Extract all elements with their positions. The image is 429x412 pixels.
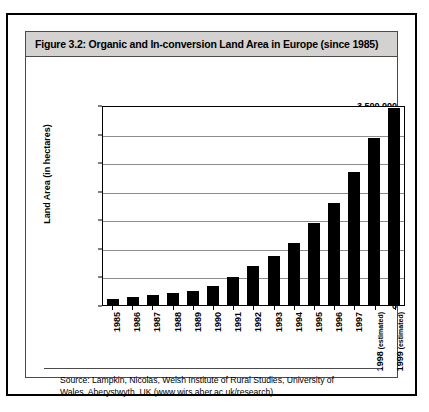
x-axis-tick-year: 1990: [213, 312, 223, 332]
x-axis-tick-label: 1992: [253, 312, 263, 332]
x-axis-tick: 1994: [284, 308, 303, 366]
bar: [308, 223, 320, 305]
x-axis-tick-label: 1993: [274, 312, 284, 332]
bar: [127, 297, 139, 305]
bar: [187, 291, 199, 305]
x-axis-tick-year: 1985: [112, 312, 122, 332]
bar: [268, 256, 280, 305]
source-line-1: Source: Lampkin, Nicolas, Welsh Institut…: [60, 374, 380, 386]
x-axis-tick-year: 1997: [354, 312, 364, 332]
x-axis-tick-label: 1998 (estimated): [375, 312, 385, 371]
bar: [247, 266, 259, 305]
x-axis-tick-year: 1989: [193, 312, 203, 332]
x-axis-tick: 1995: [304, 308, 323, 366]
x-axis-tick-mark: [132, 306, 133, 310]
bar: [288, 243, 300, 305]
x-axis-tick: 1990: [204, 308, 223, 366]
bar: [107, 299, 119, 305]
x-axis-tick-mark: [294, 306, 295, 310]
bar: [227, 277, 239, 305]
source-divider: [44, 368, 381, 369]
x-axis-tick-mark: [395, 306, 396, 310]
x-axis-tick-label: 1986: [132, 312, 142, 332]
figure-outer-frame: Figure 3.2: Organic and In-conversion La…: [6, 13, 417, 396]
x-axis-tick: 1992: [244, 308, 263, 366]
x-axis-tick-year: 1996: [334, 312, 344, 332]
bar: [328, 203, 340, 305]
x-axis-tick-mark: [173, 306, 174, 310]
x-axis-tick-mark: [375, 306, 376, 310]
x-axis-tick-note: (estimated): [397, 312, 404, 351]
bar: [348, 172, 360, 305]
x-axis-tick: 1999 (estimated): [385, 308, 404, 366]
x-axis-tick: 1985: [103, 308, 122, 366]
x-axis-tick-label: 1985: [112, 312, 122, 332]
x-axis-ticks: 1985198619871988198919901991199219931994…: [102, 308, 405, 368]
x-axis-tick-label: 1990: [213, 312, 223, 332]
x-axis-tick-label: 1988: [173, 312, 183, 332]
x-axis-tick-mark: [152, 306, 153, 310]
x-axis-tick-year: 1986: [132, 312, 142, 332]
x-axis-tick-mark: [193, 306, 194, 310]
y-axis-label: Land Area (in hectares): [42, 109, 52, 239]
x-axis-tick-mark: [233, 306, 234, 310]
x-axis-tick-mark: [314, 306, 315, 310]
x-axis-tick-label: 1989: [193, 312, 203, 332]
x-axis-tick-label: 1994: [294, 312, 304, 332]
plot-area: [102, 106, 405, 306]
x-axis-tick-label: 1997: [354, 312, 364, 332]
x-axis-tick-year: 1995: [314, 312, 324, 332]
bar: [368, 138, 380, 305]
source-line-2: Wales, Aberystwyth, UK (www.wirs.aber.ac…: [60, 386, 380, 398]
x-axis-tick: 1998 (estimated): [365, 308, 384, 366]
x-axis-tick: 1991: [224, 308, 243, 366]
x-axis-tick: 1988: [163, 308, 182, 366]
x-axis-tick: 1989: [183, 308, 202, 366]
x-axis-tick-label: 1996: [334, 312, 344, 332]
x-axis-tick-year: 1994: [294, 312, 304, 332]
figure-inner-frame: Figure 3.2: Organic and In-conversion La…: [25, 31, 398, 378]
x-axis-tick: 1986: [123, 308, 142, 366]
x-axis-tick: 1987: [143, 308, 162, 366]
bar-series: [103, 107, 404, 305]
figure-title-bar: Figure 3.2: Organic and In-conversion La…: [26, 32, 397, 57]
bar: [167, 293, 179, 305]
x-axis-tick-mark: [112, 306, 113, 310]
bar: [207, 286, 219, 305]
x-axis-tick: 1996: [325, 308, 344, 366]
x-axis-tick-label: 1987: [152, 312, 162, 332]
bar: [388, 108, 400, 305]
x-axis-tick-year: 1992: [253, 312, 263, 332]
x-axis-tick-year: 1991: [233, 312, 243, 332]
page-title: Figure 3.2: Organic and In-conversion La…: [26, 38, 378, 50]
x-axis-tick-mark: [213, 306, 214, 310]
x-axis-tick-year: 1999: [395, 351, 405, 371]
x-axis-tick-year: 1987: [152, 312, 162, 332]
x-axis-tick-year: 1993: [274, 312, 284, 332]
x-axis-tick-label: 1991: [233, 312, 243, 332]
x-axis-tick-mark: [354, 306, 355, 310]
source-note: Source: Lampkin, Nicolas, Welsh Institut…: [60, 374, 380, 398]
x-axis-tick-label: 1995: [314, 312, 324, 332]
x-axis-tick: 1997: [345, 308, 364, 366]
x-axis-tick-note: (estimated): [377, 312, 384, 351]
bar: [147, 295, 159, 305]
x-axis-tick-year: 1988: [173, 312, 183, 332]
x-axis-tick-mark: [334, 306, 335, 310]
x-axis-tick-mark: [253, 306, 254, 310]
x-axis-tick-label: 1999 (estimated): [395, 312, 405, 371]
x-axis-tick-mark: [274, 306, 275, 310]
x-axis-tick: 1993: [264, 308, 283, 366]
